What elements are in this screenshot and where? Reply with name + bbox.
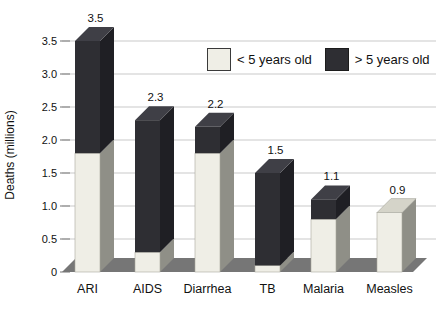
y-tick-label: 1.0 bbox=[42, 200, 57, 212]
chart-canvas: 00.51.01.52.02.53.03.5ARI3.5AIDS2.3Diarr… bbox=[0, 0, 442, 310]
bar-value-Diarrhea: 2.2 bbox=[208, 98, 224, 110]
y-tick-label: 2.0 bbox=[42, 134, 57, 146]
bar-under5-Diarrhea bbox=[195, 153, 220, 272]
bar-side-over5-TB bbox=[280, 159, 294, 265]
x-axis-label-TB: TB bbox=[260, 282, 276, 296]
bar-over5-Malaria bbox=[311, 199, 336, 219]
bar-value-Measles: 0.9 bbox=[390, 184, 406, 196]
bar-over5-Diarrhea bbox=[195, 127, 220, 153]
bar-under5-Malaria bbox=[311, 219, 336, 272]
bar-value-ARI: 3.5 bbox=[88, 12, 104, 24]
legend-swatch-under5 bbox=[207, 48, 231, 71]
x-axis-label-ARI: ARI bbox=[77, 282, 98, 296]
bar-under5-ARI bbox=[75, 153, 100, 272]
bar-value-AIDS: 2.3 bbox=[148, 91, 164, 103]
y-tick-label: 0 bbox=[51, 266, 57, 278]
bar-side-over5-ARI bbox=[100, 27, 114, 153]
x-axis-label-Diarrhea: Diarrhea bbox=[184, 282, 232, 296]
legend-label-under5: < 5 years old bbox=[237, 52, 312, 67]
y-tick-label: 3.5 bbox=[42, 35, 57, 47]
bar-value-Malaria: 1.1 bbox=[324, 170, 340, 182]
bar-value-TB: 1.5 bbox=[268, 144, 284, 156]
bar-side-over5-AIDS bbox=[160, 106, 174, 252]
bar-over5-TB bbox=[255, 173, 280, 265]
x-axis-label-Malaria: Malaria bbox=[303, 282, 344, 296]
y-axis-title: Deaths (millions) bbox=[3, 5, 19, 305]
floor bbox=[62, 258, 427, 272]
y-tick-label: 0.5 bbox=[42, 233, 57, 245]
legend-swatch-over5 bbox=[325, 48, 349, 71]
legend-label-over5: > 5 years old bbox=[355, 52, 430, 67]
x-axis-label-AIDS: AIDS bbox=[133, 282, 162, 296]
y-tick-label: 3.0 bbox=[42, 68, 57, 80]
bar-side-under5-Diarrhea bbox=[220, 139, 234, 272]
bar-under5-Measles bbox=[377, 213, 402, 272]
x-axis-label-Measles: Measles bbox=[366, 282, 413, 296]
y-tick-label: 1.5 bbox=[42, 167, 57, 179]
bar-under5-TB bbox=[255, 265, 280, 272]
bar-over5-ARI bbox=[75, 41, 100, 153]
bar-over5-AIDS bbox=[135, 120, 160, 252]
bar-under5-AIDS bbox=[135, 252, 160, 272]
legend: < 5 years old > 5 years old bbox=[207, 47, 430, 71]
y-tick-label: 2.5 bbox=[42, 101, 57, 113]
bar-side-under5-ARI bbox=[100, 139, 114, 272]
